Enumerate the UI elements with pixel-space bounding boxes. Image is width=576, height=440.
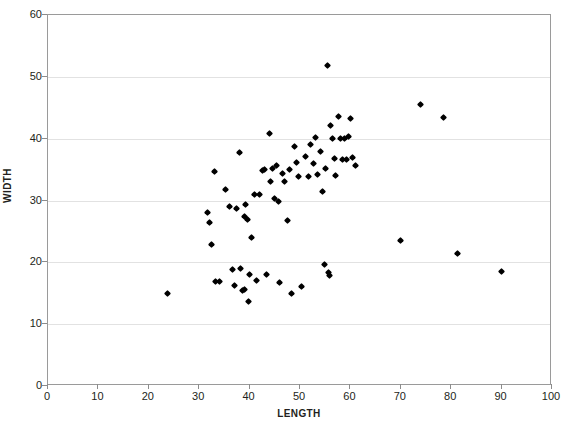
data-point bbox=[206, 219, 213, 226]
x-axis-tick-labels: 0102030405060708090100 bbox=[47, 388, 551, 408]
data-point bbox=[242, 201, 249, 208]
x-tick-mark-90 bbox=[501, 384, 502, 389]
x-tick-label-80: 80 bbox=[430, 391, 470, 402]
y-tick-label-10: 10 bbox=[8, 318, 42, 329]
data-point bbox=[279, 170, 286, 177]
data-point bbox=[233, 205, 240, 212]
data-point bbox=[293, 159, 300, 166]
x-tick-mark-10 bbox=[97, 384, 98, 389]
data-point bbox=[263, 271, 270, 278]
data-point bbox=[297, 283, 304, 290]
data-point bbox=[326, 272, 333, 279]
data-point bbox=[266, 130, 273, 137]
data-point bbox=[244, 216, 251, 223]
x-tick-label-60: 60 bbox=[329, 391, 369, 402]
data-point bbox=[208, 241, 215, 248]
data-point bbox=[329, 135, 336, 142]
data-point bbox=[310, 160, 317, 167]
y-axis-tick-labels: 0102030405060 bbox=[0, 14, 42, 385]
data-point bbox=[284, 217, 291, 224]
x-tick-label-90: 90 bbox=[481, 391, 521, 402]
x-tick-mark-50 bbox=[299, 384, 300, 389]
y-tick-label-40: 40 bbox=[8, 132, 42, 143]
data-point bbox=[231, 282, 238, 289]
x-axis-title: LENGTH bbox=[47, 408, 551, 419]
x-tick-label-10: 10 bbox=[77, 391, 117, 402]
x-tick-mark-0 bbox=[47, 384, 48, 389]
x-tick-label-40: 40 bbox=[229, 391, 269, 402]
x-tick-mark-80 bbox=[450, 384, 451, 389]
data-point bbox=[454, 250, 461, 257]
data-point bbox=[324, 62, 331, 69]
y-tick-label-20: 20 bbox=[8, 256, 42, 267]
gridline-y-50 bbox=[48, 77, 550, 78]
data-point bbox=[291, 143, 298, 150]
data-point bbox=[236, 149, 243, 156]
data-point bbox=[275, 198, 282, 205]
x-tick-mark-100 bbox=[551, 384, 552, 389]
data-point bbox=[440, 113, 447, 120]
data-point bbox=[222, 186, 229, 193]
data-point bbox=[322, 165, 329, 172]
data-point bbox=[253, 277, 260, 284]
x-tick-mark-30 bbox=[198, 384, 199, 389]
x-tick-label-20: 20 bbox=[128, 391, 168, 402]
data-point bbox=[246, 271, 253, 278]
data-point bbox=[276, 279, 283, 286]
data-point bbox=[314, 171, 321, 178]
x-tick-label-0: 0 bbox=[27, 391, 67, 402]
gridline-y-40 bbox=[48, 139, 550, 140]
data-point bbox=[335, 113, 342, 120]
data-point bbox=[164, 290, 171, 297]
data-point bbox=[349, 154, 356, 161]
data-point bbox=[281, 178, 288, 185]
gridline-y-10 bbox=[48, 324, 550, 325]
data-point bbox=[286, 166, 293, 173]
data-point bbox=[301, 153, 308, 160]
data-point bbox=[267, 178, 274, 185]
data-point bbox=[226, 203, 233, 210]
data-point bbox=[237, 265, 244, 272]
data-point bbox=[295, 173, 302, 180]
data-point bbox=[305, 173, 312, 180]
plot-frame bbox=[47, 14, 551, 385]
gridline-y-20 bbox=[48, 262, 550, 263]
x-tick-label-100: 100 bbox=[531, 391, 571, 402]
x-tick-label-30: 30 bbox=[178, 391, 218, 402]
y-tick-label-60: 60 bbox=[8, 9, 42, 20]
data-point bbox=[288, 290, 295, 297]
data-point bbox=[397, 237, 404, 244]
gridline-y-30 bbox=[48, 201, 550, 202]
scatter-chart-figure: WIDTH 0102030405060 01020304050607080901… bbox=[0, 0, 576, 440]
data-point bbox=[245, 298, 252, 305]
data-point bbox=[204, 209, 211, 216]
data-point bbox=[211, 168, 218, 175]
data-point bbox=[331, 155, 338, 162]
data-point bbox=[352, 162, 359, 169]
x-tick-mark-60 bbox=[349, 384, 350, 389]
x-tick-mark-70 bbox=[400, 384, 401, 389]
data-point bbox=[216, 278, 223, 285]
data-point bbox=[498, 268, 505, 275]
data-point bbox=[229, 266, 236, 273]
plot-area bbox=[48, 15, 550, 384]
y-tick-label-0: 0 bbox=[8, 380, 42, 391]
data-point bbox=[332, 172, 339, 179]
data-point bbox=[256, 191, 263, 198]
data-point bbox=[312, 134, 319, 141]
x-tick-label-50: 50 bbox=[279, 391, 319, 402]
data-point bbox=[321, 261, 328, 268]
y-tick-label-50: 50 bbox=[8, 70, 42, 81]
data-point bbox=[319, 188, 326, 195]
data-point bbox=[307, 141, 314, 148]
data-point bbox=[347, 115, 354, 122]
data-point bbox=[317, 148, 324, 155]
data-point bbox=[417, 100, 424, 107]
data-point bbox=[248, 234, 255, 241]
data-point bbox=[327, 122, 334, 129]
x-tick-mark-20 bbox=[148, 384, 149, 389]
x-tick-label-70: 70 bbox=[380, 391, 420, 402]
x-tick-mark-40 bbox=[249, 384, 250, 389]
y-tick-label-30: 30 bbox=[8, 194, 42, 205]
